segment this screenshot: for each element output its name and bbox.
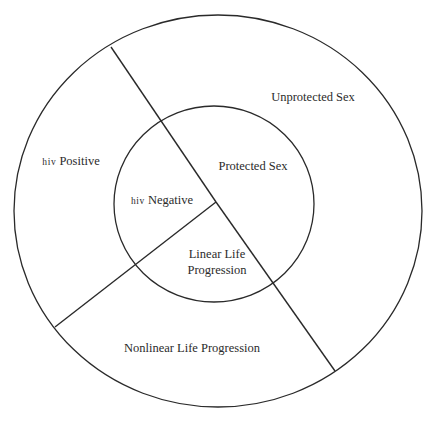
label-hiv-negative: hiv Negative	[131, 193, 194, 207]
label-linear-life-progression-line2: Progression	[187, 263, 247, 277]
label-hiv-positive-text: Positive	[56, 154, 100, 168]
label-hiv-negative-prefix: hiv	[131, 196, 145, 206]
label-hiv-positive-prefix: hiv	[42, 157, 56, 167]
label-linear-life-progression-line1: Linear Life	[189, 247, 246, 261]
label-protected-sex: Protected Sex	[218, 159, 288, 173]
divider-top-left	[111, 47, 216, 202]
label-hiv-positive: hiv Positive	[42, 154, 100, 168]
label-unprotected-sex: Unprotected Sex	[271, 90, 355, 104]
concentric-circle-diagram: Unprotected Sex hiv Positive Nonlinear L…	[0, 0, 432, 421]
label-hiv-negative-text: Negative	[145, 193, 194, 207]
label-nonlinear-life-progression: Nonlinear Life Progression	[124, 341, 261, 355]
